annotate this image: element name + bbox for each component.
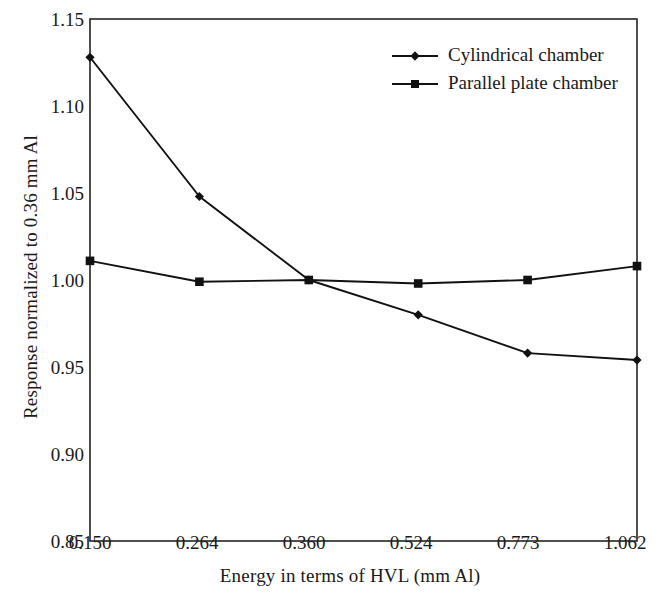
square-marker-icon (390, 76, 440, 92)
data-point-square (305, 276, 314, 285)
plot-frame (90, 19, 637, 541)
data-point-square (86, 257, 95, 266)
data-point-diamond (523, 348, 532, 357)
data-point-square (633, 262, 642, 271)
data-point-square (414, 279, 423, 288)
series-line (90, 57, 637, 360)
diamond-marker-icon (390, 48, 440, 64)
series-cylindrical-chamber (85, 53, 641, 365)
series-parallel-plate-chamber (86, 257, 642, 288)
legend-label: Cylindrical chamber (448, 45, 604, 64)
data-point-diamond (632, 355, 641, 364)
legend-label: Parallel plate chamber (448, 73, 618, 92)
series-line (90, 261, 637, 284)
data-point-square (195, 277, 204, 286)
data-point-diamond (414, 310, 423, 319)
series-layer (85, 53, 641, 365)
data-point-square (523, 276, 532, 285)
chart-figure: Response normalized to 0.36 mm Al 1.15 1… (0, 0, 661, 604)
